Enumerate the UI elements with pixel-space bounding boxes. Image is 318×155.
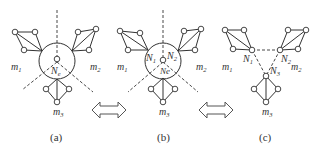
node-ne	[54, 56, 60, 62]
label-n3: N3	[269, 65, 281, 77]
double-arrow-icon	[199, 102, 233, 118]
cluster-m1	[117, 28, 148, 53]
cluster-m3	[148, 78, 178, 105]
label-n1: N1	[145, 52, 156, 64]
cluster-m1	[12, 29, 42, 53]
cluster-m2	[280, 27, 309, 52]
caption-b: (b)	[157, 131, 170, 144]
panel-c: N1 N2 N3 m1 m2 m3 (c)	[222, 27, 309, 144]
label-ne: Ne	[50, 65, 61, 77]
label-m1: m1	[117, 61, 127, 73]
double-arrow-icon	[92, 102, 126, 118]
caption-a: (a)	[50, 131, 63, 144]
diagram-canvas: Ne m1 m2 m3 (a)	[0, 0, 318, 155]
label-m2: m2	[291, 61, 302, 73]
cluster-m2	[72, 26, 99, 53]
label-m2: m2	[90, 61, 101, 73]
label-n1: N1	[242, 53, 253, 65]
panel-b: N1 N2 Ne m1 m2 m3 (b)	[117, 10, 207, 144]
label-m3: m3	[159, 106, 170, 118]
label-m3: m3	[53, 106, 64, 118]
cluster-m2	[178, 26, 204, 53]
panel-a: Ne m1 m2 m3 (a)	[11, 10, 101, 144]
figure: Ne m1 m2 m3 (a)	[0, 0, 318, 155]
label-n2: N2	[166, 50, 178, 62]
label-m3: m3	[262, 106, 273, 118]
cluster-m1	[222, 27, 252, 52]
node-n1	[249, 47, 255, 53]
label-m1: m1	[11, 61, 21, 73]
caption-c: (c)	[259, 131, 272, 144]
cluster-m3	[43, 79, 72, 105]
node-n3	[263, 73, 269, 79]
label-m2: m2	[196, 61, 207, 73]
label-n2: N2	[280, 53, 292, 65]
cluster-m3	[251, 76, 281, 105]
node-center	[160, 57, 166, 63]
label-ne: Ne	[159, 66, 170, 76]
node-n2	[277, 47, 283, 53]
label-m1: m1	[222, 61, 232, 73]
